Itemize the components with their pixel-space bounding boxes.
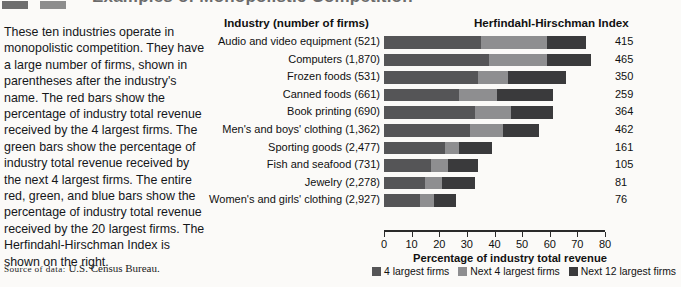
- x-axis-tick-label: 70: [571, 238, 583, 250]
- legend-swatch: [458, 267, 467, 276]
- source-label: Source of data:: [4, 264, 66, 274]
- bar-segment: [459, 142, 492, 155]
- x-axis-tick: [384, 232, 385, 237]
- chart-row: Sporting goods (2,477)161: [212, 140, 669, 158]
- stacked-bar: [384, 106, 553, 119]
- industry-label: Women's and girls' clothing (2,927): [209, 193, 380, 205]
- stacked-bar: [384, 124, 539, 137]
- bar-segment: [547, 36, 586, 49]
- legend-item: 4 largest firms: [372, 266, 449, 277]
- bar-segment: [384, 71, 478, 84]
- x-axis-tick-label: 80: [599, 238, 611, 250]
- bar-segment: [481, 36, 547, 49]
- bar-segment: [384, 194, 420, 207]
- industry-label: Men's and boys' clothing (1,362): [222, 123, 380, 135]
- x-axis-tick: [550, 232, 551, 237]
- stacked-bar-chart: Industry (number of firms) Herfindahl-Hi…: [212, 16, 669, 287]
- x-axis-tick: [495, 232, 496, 237]
- x-axis-tick: [439, 232, 440, 237]
- x-axis-tick-label: 60: [544, 238, 556, 250]
- bar-segment: [445, 142, 459, 155]
- bar-segment: [459, 89, 498, 102]
- bar-segment: [384, 177, 425, 190]
- stacked-bar: [384, 159, 478, 172]
- chart-legend: 4 largest firmsNext 4 largest firmsNext …: [372, 266, 669, 282]
- stacked-bar: [384, 71, 566, 84]
- chart-row: Men's and boys' clothing (1,362)462: [212, 122, 669, 140]
- hhi-value: 465: [615, 53, 659, 65]
- hhi-value: 81: [615, 176, 659, 188]
- hhi-value: 161: [615, 141, 659, 153]
- bar-segment: [511, 106, 552, 119]
- bar-segment: [384, 36, 481, 49]
- bar-segment: [384, 142, 445, 155]
- x-axis-tick-label: 0: [381, 238, 387, 250]
- industry-label: Sporting goods (2,477): [268, 141, 380, 153]
- x-axis-tick: [522, 232, 523, 237]
- x-axis-label: Percentage of industry total revenue: [390, 252, 630, 264]
- hhi-value: 415: [615, 35, 659, 47]
- bar-segment: [384, 89, 459, 102]
- figure-title-strip: Examples of Monopolistic Competition: [0, 0, 669, 12]
- stacked-bar: [384, 177, 475, 190]
- hhi-value: 105: [615, 158, 659, 170]
- industry-label: Canned foods (661): [283, 88, 380, 100]
- legend-swatch: [372, 267, 381, 276]
- hhi-value: 350: [615, 70, 659, 82]
- industry-label: Audio and video equipment (521): [218, 35, 380, 47]
- bar-segment: [497, 89, 552, 102]
- industry-label: Jewelry (2,278): [305, 176, 380, 188]
- bar-segment: [478, 71, 508, 84]
- hhi-value: 76: [615, 193, 659, 205]
- stacked-bar: [384, 142, 492, 155]
- bar-segment: [384, 124, 470, 137]
- bar-segment: [384, 54, 489, 67]
- title-swatch-left: [2, 1, 28, 9]
- bar-segment: [434, 194, 456, 207]
- legend-item: Next 4 largest firms: [458, 266, 560, 277]
- source-value: U.S. Census Bureau.: [68, 262, 159, 274]
- x-axis-tick: [412, 232, 413, 237]
- chart-row: Computers (1,870)465: [212, 52, 669, 70]
- legend-label: Next 4 largest firms: [470, 266, 560, 277]
- x-axis-tick-label: 30: [461, 238, 473, 250]
- x-axis-tick-label: 50: [516, 238, 528, 250]
- chart-row: Canned foods (661)259: [212, 87, 669, 105]
- legend-item: Next 12 largest firms: [569, 266, 676, 277]
- chart-row: Fish and seafood (731)105: [212, 157, 669, 175]
- column-header-hhi: Herfindahl-Hirschman Index: [474, 16, 629, 29]
- industry-label: Computers (1,870): [288, 53, 380, 65]
- x-axis-tick: [467, 232, 468, 237]
- figure-title: Examples of Monopolistic Competition: [92, 0, 413, 7]
- x-axis-tick-label: 10: [406, 238, 418, 250]
- bar-segment: [420, 194, 434, 207]
- title-swatch-right: [40, 1, 66, 9]
- legend-swatch: [569, 267, 578, 276]
- legend-label: Next 12 largest firms: [581, 266, 676, 277]
- chart-row: Women's and girls' clothing (2,927)76: [212, 192, 669, 210]
- legend-label: 4 largest firms: [384, 266, 449, 277]
- chart-row: Audio and video equipment (521)415: [212, 34, 669, 52]
- bar-segment: [470, 124, 503, 137]
- bar-segment: [442, 177, 475, 190]
- stacked-bar: [384, 89, 553, 102]
- bar-segment: [489, 54, 547, 67]
- industry-label: Frozen foods (531): [287, 70, 380, 82]
- x-axis-tick: [605, 232, 606, 237]
- bar-segment: [475, 106, 511, 119]
- bar-segment: [547, 54, 591, 67]
- industry-label: Book printing (690): [287, 105, 380, 117]
- bar-segment: [431, 159, 448, 172]
- figure-caption: These ten industries operate in monopoli…: [4, 24, 209, 270]
- plot-area: Audio and video equipment (521)415Comput…: [212, 34, 669, 230]
- hhi-value: 462: [615, 123, 659, 135]
- bar-segment: [384, 159, 431, 172]
- hhi-value: 259: [615, 88, 659, 100]
- bar-segment: [448, 159, 478, 172]
- x-axis-tick-label: 40: [488, 238, 500, 250]
- stacked-bar: [384, 36, 586, 49]
- stacked-bar: [384, 54, 591, 67]
- bar-segment: [384, 106, 475, 119]
- x-axis-tick-label: 20: [433, 238, 445, 250]
- column-header-industry: Industry (number of firms): [224, 16, 369, 29]
